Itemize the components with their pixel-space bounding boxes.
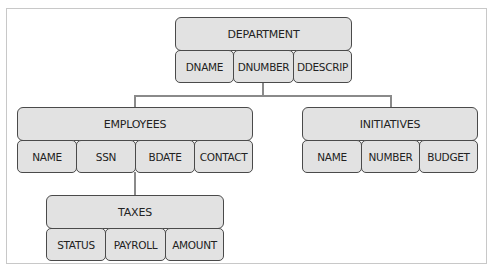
field-status: STATUS xyxy=(46,228,106,261)
field-bdate: BDATE xyxy=(135,140,195,173)
entity-department-header: DEPARTMENT xyxy=(175,17,352,51)
field-budget: BUDGET xyxy=(419,140,478,173)
field-ddescrip: DDESCRIP xyxy=(293,50,352,83)
field-amount: AMOUNT xyxy=(165,228,224,261)
connector-employees-up xyxy=(134,95,136,107)
entity-taxes-header: TAXES xyxy=(46,195,224,229)
field-name: NAME xyxy=(17,140,77,173)
field-ssn: SSN xyxy=(76,140,136,173)
connector-horizontal xyxy=(134,95,392,97)
field-contact: CONTACT xyxy=(194,140,253,173)
field-initiative-name: NAME xyxy=(302,140,362,173)
field-number: NUMBER xyxy=(361,140,420,173)
connector-employees-taxes xyxy=(134,172,136,195)
field-dnumber: DNUMBER xyxy=(233,50,294,83)
field-dname: DNAME xyxy=(175,50,234,83)
connector-initiatives-up xyxy=(390,95,392,107)
field-payroll: PAYROLL xyxy=(105,228,166,261)
entity-initiatives-header: INITIATIVES xyxy=(302,107,478,141)
entity-employees-header: EMPLOYEES xyxy=(17,107,253,141)
